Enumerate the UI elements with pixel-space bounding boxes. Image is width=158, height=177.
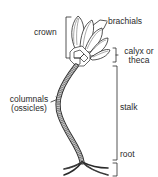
label-columnals-line2: (ossicles) — [6, 104, 52, 113]
stalk — [58, 66, 82, 162]
label-crown: crown — [34, 28, 57, 37]
brachials-leader — [92, 20, 107, 26]
label-columnals: columnals (ossicles) — [6, 95, 52, 113]
label-calyx: calyx or theca — [119, 47, 158, 65]
label-brachials: brachials — [108, 17, 142, 26]
label-stalk: stalk — [120, 103, 137, 112]
calyx-bracket — [113, 48, 118, 62]
label-calyx-line2: theca — [119, 56, 158, 65]
crinoid-diagram: crown brachials calyx or theca columnals… — [0, 0, 158, 177]
root-bracket — [113, 163, 117, 176]
stalk-bracket — [113, 66, 117, 160]
label-root: root — [120, 150, 135, 159]
